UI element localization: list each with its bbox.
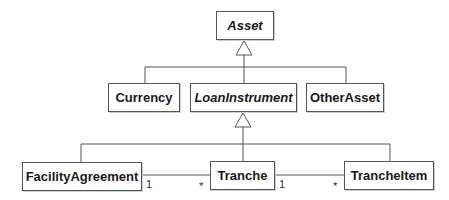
class-loaninstrument: LoanInstrument — [190, 83, 297, 112]
class-facilityagreement: FacilityAgreement — [22, 162, 142, 191]
class-trancheitem: TrancheItem — [344, 161, 434, 190]
class-currency: Currency — [108, 83, 180, 112]
multiplicity-label: 1 — [279, 178, 285, 190]
generalization-arrow-icon — [235, 113, 251, 127]
class-tranche: Tranche — [210, 161, 275, 190]
multiplicity-label: * — [333, 180, 337, 192]
generalization-arrow-icon — [236, 41, 252, 55]
multiplicity-label: * — [199, 180, 203, 192]
class-asset: Asset — [216, 11, 274, 40]
multiplicity-label: 1 — [146, 178, 152, 190]
class-otherasset: OtherAsset — [306, 83, 384, 112]
